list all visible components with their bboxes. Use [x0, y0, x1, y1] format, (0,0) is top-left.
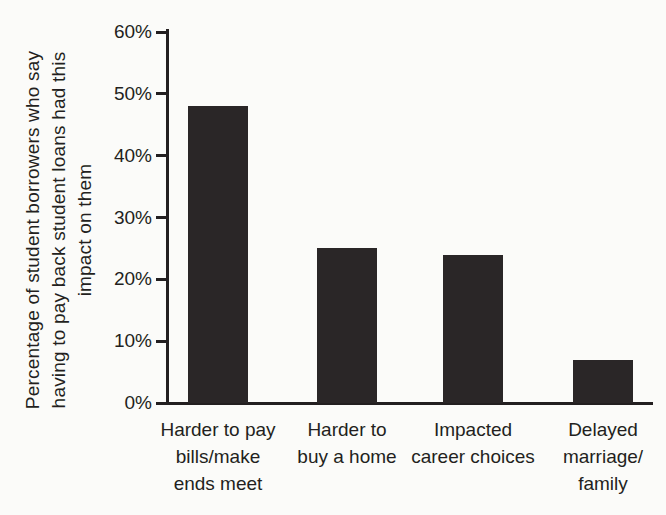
- y-axis-tick: [156, 154, 167, 157]
- y-axis-tick: [156, 31, 167, 34]
- bar-chart: Percentage of student borrowers who say …: [0, 0, 666, 515]
- y-axis-tick-label: 0%: [88, 390, 152, 416]
- bar-harder-to-pay-bills-make-ends-meet: [188, 106, 248, 403]
- y-axis-tick: [156, 340, 167, 343]
- y-axis-tick-label: 60%: [88, 19, 152, 45]
- x-axis-label-line: family: [528, 470, 666, 497]
- y-axis-tick-label: 20%: [88, 266, 152, 292]
- x-axis-label: Harder to paybills/makeends meet: [143, 416, 293, 497]
- x-axis-label: Delayedmarriage/family: [528, 416, 666, 497]
- y-axis-title-line: Percentage of student borrowers who say: [20, 20, 46, 440]
- bar-impacted-career-choices: [443, 255, 503, 403]
- x-axis-label-line: ends meet: [143, 470, 293, 497]
- x-axis-label-line: Harder to pay: [143, 416, 293, 443]
- x-axis-label: Impactedcareer choices: [398, 416, 548, 470]
- y-axis-tick-label: 10%: [88, 328, 152, 354]
- bar-harder-to-buy-a-home: [317, 248, 377, 403]
- bar-delayed-marriage-family: [573, 360, 633, 403]
- x-axis-label-line: bills/make: [143, 443, 293, 470]
- y-axis-tick: [156, 278, 167, 281]
- y-axis-tick-label: 40%: [88, 143, 152, 169]
- y-axis-tick-label: 50%: [88, 81, 152, 107]
- x-axis-label-line: Impacted: [398, 416, 548, 443]
- y-axis-tick: [156, 216, 167, 219]
- y-axis-title-line: having to pay back student loans had thi…: [46, 20, 72, 440]
- y-axis-tick: [156, 92, 167, 95]
- y-axis-tick-label: 30%: [88, 205, 152, 231]
- x-axis-label-line: marriage/: [528, 443, 666, 470]
- y-axis-tick: [156, 402, 167, 405]
- x-axis-label-line: Delayed: [528, 416, 666, 443]
- x-axis-label-line: career choices: [398, 443, 548, 470]
